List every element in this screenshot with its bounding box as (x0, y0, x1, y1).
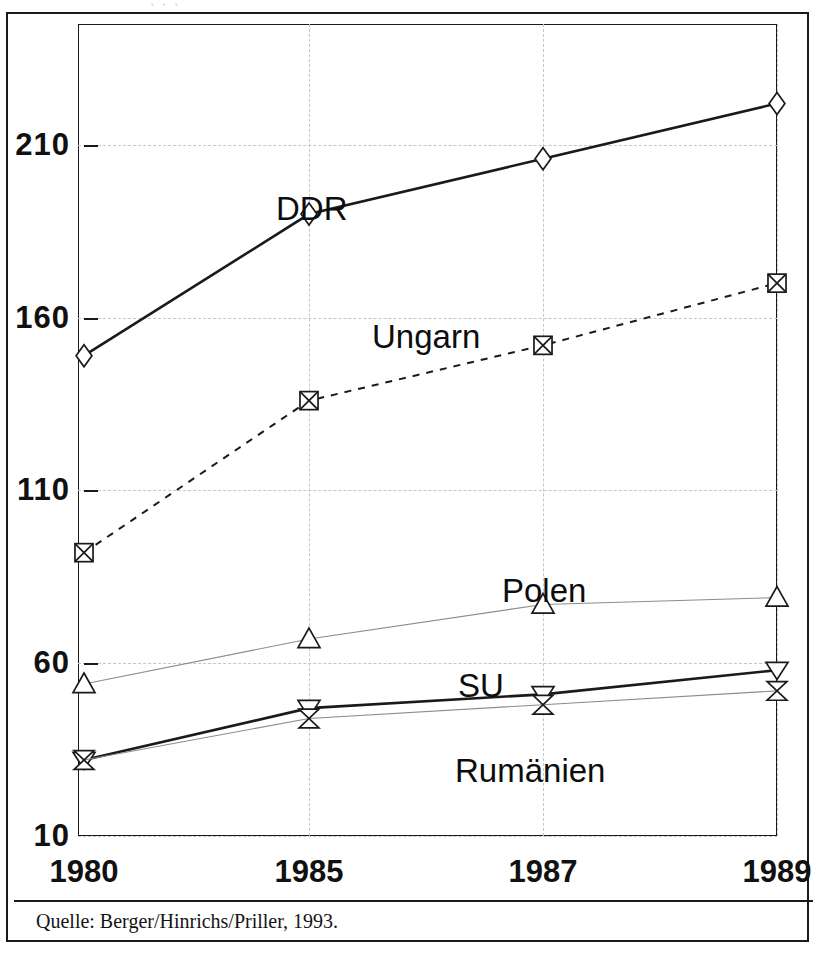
y-tick-label-60: 60 (34, 645, 70, 681)
y-tick-mark-60 (84, 663, 98, 665)
series-rumnien (74, 682, 787, 770)
source-note: Quelle: Berger/Hinrichs/Priller, 1993. (36, 910, 338, 933)
x-tick-label-1987: 1987 (509, 854, 578, 890)
gridline-x-1989 (777, 24, 778, 836)
y-tick-mark-160 (84, 318, 98, 320)
series-label-su: SU (458, 667, 504, 705)
gridline-y-10 (78, 836, 777, 837)
series-label-ungarn: Ungarn (372, 318, 480, 356)
y-tick-label-110: 110 (17, 472, 70, 508)
y-tick-label-210: 210 (15, 127, 70, 163)
chart-container: 2101601106010 1980198519871989 DDRUngarn… (6, 12, 809, 942)
source-divider (14, 900, 813, 902)
x-tick-label-1985: 1985 (275, 854, 344, 890)
y-tick-mark-210 (84, 145, 98, 147)
y-tick-label-10: 10 (34, 818, 70, 854)
series-su (73, 662, 788, 769)
series-line (84, 598, 777, 684)
x-tick-label-1980: 1980 (50, 854, 119, 890)
series-label-ddr: DDR (276, 190, 348, 228)
series-polen (73, 587, 788, 693)
page-top-cut-text: · · · (0, 0, 815, 8)
figure-page: · · · 2101601106010 1980198519871989 DDR… (0, 0, 815, 953)
series-lines-and-markers (78, 24, 777, 836)
y-tick-label-160: 160 (15, 300, 70, 336)
y-tick-mark-110 (84, 490, 98, 492)
plot-area (78, 24, 777, 836)
series-label-rumnien: Rumänien (455, 752, 605, 790)
series-line (84, 670, 777, 760)
x-tick-label-1989: 1989 (743, 854, 812, 890)
series-label-polen: Polen (502, 572, 586, 610)
